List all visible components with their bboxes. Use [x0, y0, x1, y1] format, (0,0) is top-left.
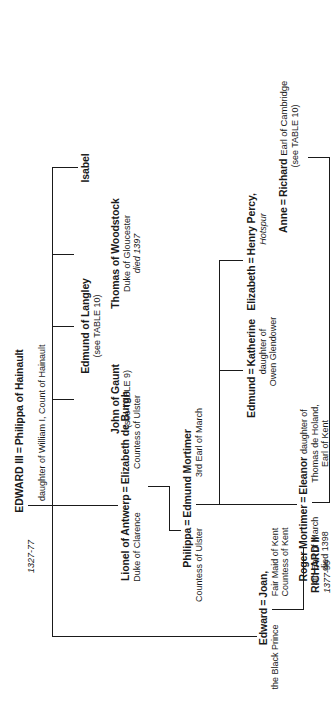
node-edward-iii: EDWARD III=Philippa of Hainault 1327-77	[14, 281, 36, 581]
edward-iii-spouse: Philippa of Hainault	[13, 349, 25, 445]
lionel-title: Duke of Clarence	[132, 493, 142, 601]
node-elizabeth-percy: Elizabeth=Henry Percy, Hotspur	[246, 178, 268, 326]
connector-edwardiii-drop	[28, 505, 52, 506]
richard-cambridge-title: Earl of Cambridge	[278, 81, 289, 159]
connector-lionel-to-philippa	[169, 486, 170, 531]
richard-cambridge-name: Richard	[277, 159, 289, 197]
node-roger-mortimer: Roger Mortimer=Eleanordaughter of 4th Ea…	[298, 388, 330, 603]
edmund-katherine-names: Edmund=Katherine	[246, 306, 258, 431]
elizabeth-de-burgh-title: Countess of Ulster	[132, 371, 142, 493]
roger-mortimer-death: died 1398	[320, 499, 330, 603]
edmund-name: Edmund	[245, 377, 257, 418]
marriage-equals: =	[297, 495, 309, 505]
node-thomas-of-woodstock: Thomas of Woodstock Duke of Gloucester d…	[110, 186, 142, 321]
joan-epithet: Fair Maid of Kent	[270, 513, 280, 611]
marriage-equals: =	[181, 518, 193, 528]
connector-tick-lionel	[52, 505, 118, 506]
roger-mortimer-title: 4th Earl of March	[310, 499, 320, 603]
eleanor-name: Eleanor	[297, 457, 309, 495]
roger-mortimer-subtitles: 4th Earl of March died 1398 Thomas de Ho…	[310, 388, 331, 603]
edward-iii-name: EDWARD III	[13, 455, 25, 512]
connector-tick-john-of-gaunt	[52, 399, 74, 400]
lionel-names: Lionel of Antwerp=Elizabeth de Burgh	[120, 371, 132, 601]
connector-tick-elizabeth-percy	[219, 260, 243, 261]
edmund-mortimer-name: Edmund Mortimer	[181, 429, 193, 517]
marriage-equals: =	[245, 256, 257, 266]
black-prince-names: Edward=Joan,	[258, 513, 270, 703]
philippa-subtitles: Countess of Ulster 3rd Earl of March	[194, 376, 204, 621]
node-edmund-katherine: Edmund=Katherine daughter of Owen Glendo…	[246, 306, 278, 431]
joan-title: Countess of Kent	[280, 513, 290, 611]
connector-philippa-tick	[169, 530, 181, 531]
roger-mortimer-name: Roger Mortimer	[297, 505, 309, 582]
joan-titles: Fair Maid of Kent Countess of Kent	[270, 513, 291, 611]
rotated-chart-wrapper: EDWARD III=Philippa of Hainault 1327-77 …	[0, 0, 332, 711]
elizabeth-name: Elizabeth	[245, 266, 257, 311]
hotspur-epithet: Hotspur	[258, 178, 268, 326]
connector-tick-edmund-katherine	[219, 370, 243, 371]
elizabeth-percy-names: Elizabeth=Henry Percy,	[246, 178, 258, 326]
isabel-name: Isabel	[80, 130, 92, 206]
node-lionel-of-antwerp: Lionel of Antwerp=Elizabeth de Burgh Duk…	[120, 371, 142, 601]
edward-iii-spouse-sub-text: daughter of William I, Count of Hainault	[37, 251, 47, 501]
thomas-woodstock-death: died 1397	[132, 186, 142, 321]
edward-iii-spouse-sub: daughter of William I, Count of Hainault	[37, 251, 47, 501]
philippa-name: Philippa	[181, 528, 193, 568]
black-prince-epithet: the Black Prince	[270, 611, 291, 703]
edmund-langley-ref: (see TABLE 10)	[92, 271, 102, 381]
connector-lionel-drop	[148, 486, 170, 487]
thomas-woodstock-name: Thomas of Woodstock	[110, 186, 122, 321]
katherine-parent-2: Owen Glendower	[268, 306, 278, 431]
lionel-subtitles: Duke of Clarence Countess of Ulster	[132, 371, 142, 601]
node-edmund-of-langley: Edmund of Langley (see TABLE 10)	[80, 271, 102, 381]
marriage-equals: =	[119, 484, 131, 494]
node-anne-richard: Anne=RichardEarl of Cambridge (see TABLE…	[278, 81, 300, 233]
anne-richard-names: Anne=RichardEarl of Cambridge	[278, 81, 290, 233]
connector-tick-roger-mortimer	[219, 504, 297, 505]
connector-roger-drop	[312, 502, 330, 503]
connector-roger-children-bar	[329, 158, 330, 503]
roger-mortimer-titles: 4th Earl of March died 1398	[310, 499, 331, 603]
edmund-mortimer-title: 3rd Earl of March	[194, 376, 204, 509]
philippa-names: Philippa=Edmund Mortimer	[182, 376, 194, 621]
connector-children-bar	[52, 167, 53, 637]
eleanor-relation: daughter of	[299, 409, 309, 456]
connector-mortimer-children-bar	[219, 261, 220, 505]
anne-name: Anne	[277, 207, 289, 233]
connector-tick-isabel	[52, 167, 78, 168]
lionel-spouse: Elizabeth de Burgh	[119, 391, 131, 484]
katherine-name: Katherine	[245, 319, 257, 367]
marriage-equals: =	[245, 367, 257, 377]
eleanor-parentage: Thomas de Holand, Earl of Kent	[310, 388, 331, 499]
philippa-title: Countess of Ulster	[194, 509, 204, 621]
family-tree-diagram: EDWARD III=Philippa of Hainault 1327-77 …	[0, 0, 332, 711]
katherine-parent-1: daughter of	[258, 306, 268, 431]
connector-tick-edmund-langley	[52, 326, 74, 327]
thomas-woodstock-title: Duke of Gloucester	[122, 186, 132, 321]
marriage-equals: =	[277, 197, 289, 207]
node-isabel: Isabel	[80, 130, 92, 206]
henry-percy-name: Henry Percy,	[245, 193, 257, 255]
lionel-name: Lionel of Antwerp	[119, 494, 131, 581]
edward-iii-reign: 1327-77	[26, 485, 36, 581]
connector-philippa-drop	[196, 504, 220, 505]
connector-tick-black-prince	[52, 636, 257, 637]
node-edward-iii-names: EDWARD III=Philippa of Hainault	[14, 281, 26, 581]
eleanor-father: Thomas de Holand,	[310, 388, 320, 499]
edward-name: Edward	[257, 608, 269, 645]
connector-tick-anne	[308, 157, 330, 158]
edmund-langley-name: Edmund of Langley	[80, 271, 92, 381]
roger-mortimer-names: Roger Mortimer=Eleanordaughter of	[298, 388, 310, 603]
marriage-equals: =	[257, 598, 269, 608]
node-philippa: Philippa=Edmund Mortimer Countess of Uls…	[182, 376, 204, 621]
joan-name: Joan,	[257, 571, 269, 598]
anne-richard-ref: (see TABLE 10)	[290, 81, 300, 233]
marriage-equals: =	[13, 445, 25, 455]
connector-tick-thomas-woodstock	[52, 254, 74, 255]
connector-blackprince-drop	[272, 609, 304, 610]
